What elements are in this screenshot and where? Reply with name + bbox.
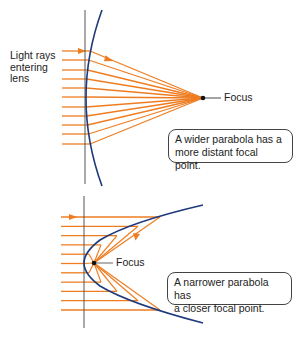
callout-line: A wider parabola has a <box>175 133 286 146</box>
bottom-focus-label: Focus <box>116 257 145 269</box>
focus-dot <box>201 96 206 101</box>
callout-line: more distant focal point. <box>175 146 286 172</box>
arrow-icon <box>133 233 140 241</box>
light-rays-label: Light rays entering lens <box>10 50 56 85</box>
top-focus-label: Focus <box>224 92 253 104</box>
wide-parabola-curve <box>86 10 102 186</box>
label-line: lens <box>10 73 56 85</box>
focus-dot <box>92 261 97 266</box>
label-line: Light rays <box>10 50 56 62</box>
bottom-callout: A narrower parabola has a closer focal p… <box>167 272 292 305</box>
callout-line: A narrower parabola has <box>174 276 285 302</box>
bottom-incoming-rays <box>61 217 160 310</box>
arrow-icon <box>69 214 77 220</box>
callout-line: a closer focal point. <box>174 302 285 315</box>
arrow-icon <box>104 55 114 61</box>
top-callout: A wider parabola has a more distant foca… <box>168 129 293 163</box>
